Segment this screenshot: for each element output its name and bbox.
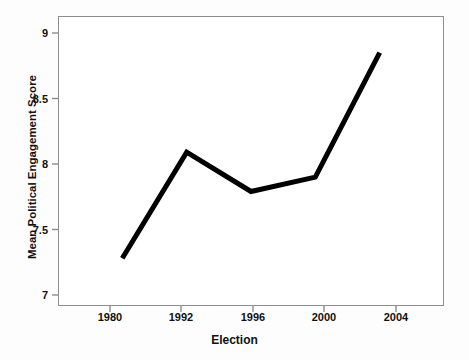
x-axis-title: Election <box>0 333 469 347</box>
x-tick-label-1996: 1996 <box>223 311 283 323</box>
x-tick-label-1992: 1992 <box>151 311 211 323</box>
chart-figure: 9 8.5 8 7.5 7 1980 1992 1996 2000 2004 E… <box>0 0 469 360</box>
x-tick-label-2004: 2004 <box>366 311 426 323</box>
y-tick-label-9: 9 <box>8 27 48 39</box>
x-tick-label-2000: 2000 <box>294 311 354 323</box>
y-axis-title: Mean Political Engagement Score <box>26 42 38 292</box>
x-tick-label-1980: 1980 <box>80 311 140 323</box>
plot-area-frame <box>58 16 444 306</box>
